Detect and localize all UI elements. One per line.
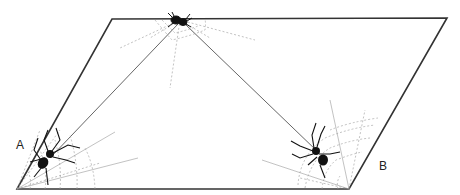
thread-top-to-a [50,24,178,158]
web-a [17,130,138,189]
web-b [262,100,378,189]
spider-b-icon [291,123,340,178]
diagram-canvas [0,0,460,195]
thread-top-to-b [185,24,318,152]
web-top [120,19,255,88]
spider-parallelogram-diagram: A B [0,0,460,195]
label-a: A [16,138,24,152]
label-b: B [379,159,387,173]
